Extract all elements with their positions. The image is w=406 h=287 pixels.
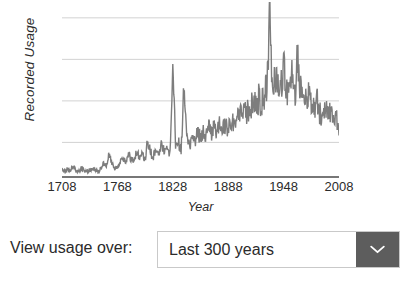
x-tick-label: 1948 (269, 179, 298, 194)
usage-range-dropdown[interactable]: Last 300 years (157, 231, 400, 268)
x-axis-tick-labels: 170817681828188819482008 (62, 179, 339, 197)
usage-line-chart (62, 2, 339, 178)
y-axis-label: Recorded Usage (22, 0, 37, 140)
usage-range-selected-value[interactable]: Last 300 years (158, 232, 356, 267)
x-tick-label: 1768 (103, 179, 132, 194)
x-tick-label: 1888 (214, 179, 243, 194)
x-tick-label: 1708 (48, 179, 77, 194)
chart-plot-area (62, 2, 339, 178)
chevron-down-icon (370, 245, 385, 254)
x-tick-label: 1828 (158, 179, 187, 194)
usage-range-control: View usage over: Last 300 years (0, 231, 406, 268)
usage-figure: Recorded Usage 170817681828188819482008 … (0, 0, 406, 228)
usage-series-line (62, 2, 339, 173)
chart-gridlines (62, 18, 339, 143)
x-tick-label: 2008 (325, 179, 354, 194)
x-axis-label: Year (62, 200, 339, 214)
dropdown-toggle-button[interactable] (356, 232, 399, 267)
view-usage-over-label: View usage over: (10, 239, 132, 257)
